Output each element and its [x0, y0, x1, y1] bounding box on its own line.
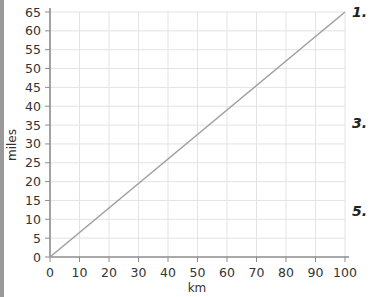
y-tick-label: 25	[25, 155, 41, 170]
x-tick-label: 0	[46, 265, 54, 280]
km-miles-chart: 0102030405060708090100051015202530354045…	[0, 0, 374, 297]
tick-labels: 0102030405060708090100051015202530354045…	[25, 5, 357, 281]
y-tick-label: 0	[33, 250, 41, 265]
y-tick-label: 35	[25, 118, 41, 133]
x-tick-label: 90	[308, 265, 324, 280]
y-tick-label: 10	[25, 212, 41, 227]
y-tick-label: 15	[25, 193, 41, 208]
y-tick-label: 60	[25, 23, 41, 38]
y-tick-label: 55	[25, 42, 41, 57]
x-tick-label: 70	[249, 265, 265, 280]
x-tick-label: 40	[160, 265, 176, 280]
y-tick-label: 45	[25, 80, 41, 95]
question-number-1: 1.	[352, 4, 367, 20]
x-tick-label: 20	[101, 265, 117, 280]
question-number-3: 3.	[352, 115, 367, 131]
x-tick-label: 50	[190, 265, 206, 280]
x-tick-label: 10	[72, 265, 88, 280]
x-tick-label: 100	[333, 265, 357, 280]
y-tick-label: 5	[33, 231, 41, 246]
y-tick-label: 50	[25, 61, 41, 76]
x-tick-label: 80	[278, 265, 294, 280]
y-tick-label: 40	[25, 99, 41, 114]
y-tick-label: 20	[25, 174, 41, 189]
question-number-5: 5.	[352, 203, 367, 219]
x-axis-title: km	[188, 281, 207, 295]
x-tick-label: 60	[219, 265, 235, 280]
y-tick-label: 65	[25, 5, 41, 20]
y-tick-label: 30	[25, 136, 41, 151]
x-tick-label: 30	[131, 265, 147, 280]
y-axis-title: miles	[5, 129, 19, 161]
